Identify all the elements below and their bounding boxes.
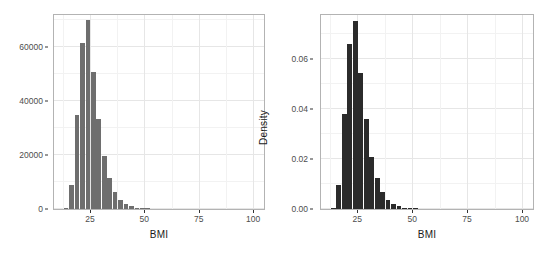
x-tick-mark — [412, 210, 413, 213]
x-tick-mark — [253, 210, 254, 213]
gridline-vertical — [172, 15, 173, 209]
x-axis-title-right: BMI — [320, 229, 534, 240]
x-tick-label: 75 — [462, 214, 471, 224]
gridline-vertical — [412, 15, 413, 209]
y-tick-mark — [310, 108, 313, 109]
panel-count-histogram: Number of Individual 0200004000060000 25… — [0, 0, 271, 255]
histogram-bar — [402, 208, 407, 210]
gridline-vertical — [440, 15, 441, 209]
y-axis-ticks-right: 0.000.020.040.06 — [271, 14, 314, 210]
x-tick-label: 50 — [140, 214, 149, 224]
figure-two-panel-histograms: Number of Individual 0200004000060000 25… — [0, 0, 542, 255]
x-tick-mark — [357, 210, 358, 213]
x-tick-label: 100 — [515, 214, 529, 224]
histogram-bar — [124, 204, 129, 209]
plot-area-right — [320, 14, 534, 210]
histogram-bar — [96, 119, 101, 209]
y-tick-label: 20000 — [19, 150, 43, 160]
histogram-bar — [140, 208, 145, 209]
y-tick-label: 0.00 — [291, 204, 308, 214]
gridline-vertical — [330, 15, 331, 209]
histogram-bar — [64, 208, 69, 209]
histogram-bar — [336, 185, 341, 209]
y-tick-label: 60000 — [19, 42, 43, 52]
y-axis-ticks-left: 0200004000060000 — [4, 14, 49, 210]
histogram-bar — [135, 208, 140, 209]
y-tick-label: 0 — [38, 204, 43, 214]
histogram-bar — [408, 208, 413, 209]
x-tick-label: 25 — [353, 214, 362, 224]
gridline-vertical — [226, 15, 227, 209]
x-tick-mark — [199, 210, 200, 213]
histogram-bar — [80, 43, 85, 209]
histogram-bar — [118, 200, 123, 209]
y-tick-mark — [45, 209, 48, 210]
histogram-bar — [129, 206, 134, 209]
x-tick-mark — [144, 210, 145, 213]
y-tick-mark — [45, 155, 48, 156]
histogram-bar — [69, 185, 74, 209]
histogram-bar — [86, 20, 91, 209]
gridline-vertical — [467, 15, 468, 209]
x-tick-mark — [467, 210, 468, 213]
plot-area-left — [53, 14, 265, 210]
histogram-bar — [75, 115, 80, 209]
histogram-bar — [145, 208, 150, 209]
histogram-bar — [91, 72, 96, 209]
histogram-bar — [413, 208, 418, 209]
x-axis-title-left: BMI — [53, 229, 265, 240]
y-tick-mark — [310, 158, 313, 159]
y-tick-label: 0.06 — [291, 54, 308, 64]
y-tick-mark — [45, 47, 48, 48]
histogram-bar — [331, 208, 336, 209]
y-tick-mark — [310, 209, 313, 210]
histogram-bar — [358, 73, 363, 209]
gridline-vertical — [144, 15, 145, 209]
y-tick-label: 0.02 — [291, 154, 308, 164]
x-tick-mark — [522, 210, 523, 213]
gridline-vertical — [117, 15, 118, 209]
y-tick-label: 40000 — [19, 96, 43, 106]
y-tick-mark — [310, 58, 313, 59]
gridline-vertical — [63, 15, 64, 209]
histogram-bar — [113, 192, 118, 209]
x-tick-label: 75 — [194, 214, 203, 224]
histogram-bar — [364, 119, 369, 209]
x-tick-mark — [90, 210, 91, 213]
y-tick-mark — [45, 101, 48, 102]
gridline-vertical — [495, 15, 496, 209]
histogram-bar — [391, 204, 396, 209]
histogram-bar — [380, 192, 385, 209]
histogram-bar — [369, 157, 374, 209]
x-tick-label: 25 — [85, 214, 94, 224]
gridline-vertical — [253, 15, 254, 209]
histogram-bar — [386, 200, 391, 210]
histogram-bar — [375, 178, 380, 209]
histogram-bar — [342, 114, 347, 209]
x-tick-label: 100 — [246, 214, 260, 224]
gridline-vertical — [522, 15, 523, 209]
histogram-bar — [347, 44, 352, 209]
y-tick-label: 0.04 — [291, 104, 308, 114]
x-tick-label: 50 — [407, 214, 416, 224]
histogram-bar — [107, 178, 112, 209]
gridline-vertical — [199, 15, 200, 209]
histogram-bar — [102, 156, 107, 209]
panel-density-histogram: Density 0.000.020.040.06 255075100 BMI — [271, 0, 542, 255]
histogram-bar — [397, 206, 402, 209]
gridline-vertical — [385, 15, 386, 209]
histogram-bar — [353, 21, 358, 209]
